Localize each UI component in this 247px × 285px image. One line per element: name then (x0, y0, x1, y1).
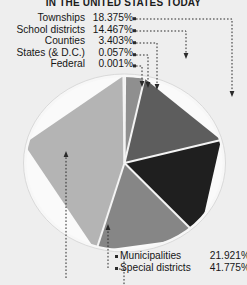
label-name-special-districts: Special districts (120, 262, 204, 274)
label-name-townships: Townships (37, 12, 85, 24)
chart-title: IN THE UNITED STATES TODAY (0, 0, 247, 8)
bullet-federal (133, 64, 136, 67)
arrow-school-districts (184, 53, 189, 59)
label-name-municipalities: Municipalities (120, 250, 204, 262)
arrow-townships (230, 91, 235, 97)
chart-root: IN THE UNITED STATES TODAY Townships 18.… (0, 0, 247, 285)
label-value-school-districts: 14.467% (85, 24, 133, 36)
leader-school-districts (136, 31, 186, 55)
label-value-states: 0.057% (85, 47, 133, 59)
label-row-counties: Counties 3.403% (0, 35, 133, 47)
label-row-states: States (& D.C.) 0.057% (0, 47, 133, 59)
label-row-school-districts: School districts 14.467% (0, 24, 133, 36)
bullet-townships (133, 17, 136, 20)
bottom-label-group: Municipalities 21.921% Special districts… (120, 250, 247, 274)
label-row-municipalities: Municipalities 21.921% (120, 250, 247, 262)
bullet-states (133, 53, 136, 56)
label-value-counties: 3.403% (85, 35, 133, 47)
label-row-special-districts: Special districts 41.775% (120, 262, 247, 274)
bullet-municipalities (115, 255, 118, 258)
label-value-townships: 18.375% (85, 12, 133, 24)
bullet-special-districts (115, 267, 118, 270)
label-row-townships: Townships 18.375% (0, 12, 133, 24)
label-value-federal: 0.001% (85, 58, 133, 70)
label-value-special-districts: 41.775% (204, 262, 247, 274)
bullet-school-districts (133, 29, 136, 32)
label-name-states: States (& D.C.) (17, 47, 86, 59)
label-row-federal: Federal 0.001% (0, 58, 133, 70)
pie-svg (22, 74, 227, 254)
bullet-counties (133, 41, 136, 44)
label-name-counties: Counties (45, 35, 85, 47)
top-label-group: Townships 18.375% School districts 14.46… (0, 12, 133, 70)
pie-chart (22, 74, 227, 254)
label-name-federal: Federal (50, 58, 85, 70)
label-value-municipalities: 21.921% (204, 250, 247, 262)
label-name-school-districts: School districts (16, 24, 85, 36)
